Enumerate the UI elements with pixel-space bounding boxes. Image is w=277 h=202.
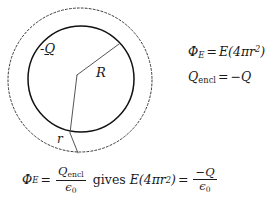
- flux-rhs-expression: E(4πr: [219, 44, 255, 59]
- equation-bottom: ΦE= Qencl ϵ0 givesE(4πr2)= −Q ϵ0: [22, 166, 220, 194]
- fraction-negq-over-epsilon: −Q ϵ0: [193, 167, 216, 194]
- gaussian-surface-dashed-circle: [8, 8, 152, 152]
- equation-flux-right: ΦE=E(4πr2): [188, 45, 265, 60]
- qencl-subscript: encl: [198, 75, 216, 85]
- fraction-numerator: −Q: [193, 167, 216, 180]
- gauss-law-figure: -Q R r ΦE=E(4πr2) Qencl=−Q ΦE= Qencl ϵ0 …: [0, 0, 277, 202]
- numerator-subscript: encl: [67, 170, 83, 179]
- equation-qencl-right: Qencl=−Q: [188, 71, 251, 85]
- connector-word: gives: [89, 174, 130, 187]
- charge-label: -Q: [40, 42, 55, 55]
- fraction-denominator: ϵ0: [63, 181, 78, 195]
- qencl-symbol: Q: [188, 69, 198, 84]
- numerator-sign: −: [195, 165, 205, 179]
- bottom-mid-expression: E(4πr: [130, 174, 166, 187]
- flux-rhs-close-paren: ): [260, 44, 265, 59]
- charge-symbol: Q: [44, 41, 55, 56]
- fraction-denominator: ϵ0: [197, 180, 212, 194]
- numerator-symbol: Q: [205, 165, 214, 179]
- radius-r-line: [70, 75, 78, 153]
- qencl-rhs-symbol: Q: [241, 69, 251, 84]
- denominator-subscript: 0: [72, 186, 77, 195]
- numerator-symbol: Q: [58, 164, 67, 178]
- inner-radius-label: r: [57, 133, 63, 145]
- equals-sign: =: [216, 69, 230, 84]
- equals-sign: =: [204, 44, 218, 59]
- bottom-equals-two: =: [176, 174, 190, 187]
- fraction-numerator: Qencl: [56, 166, 86, 180]
- flux-phi-symbol: Φ: [188, 44, 198, 59]
- bottom-equals-one: =: [38, 174, 52, 187]
- bottom-phi-symbol: Φ: [22, 174, 32, 187]
- outer-radius-label: R: [96, 66, 106, 79]
- qencl-rhs-sign: −: [231, 69, 241, 84]
- denominator-subscript: 0: [206, 185, 211, 194]
- fraction-qencl-over-epsilon: Qencl ϵ0: [56, 166, 86, 194]
